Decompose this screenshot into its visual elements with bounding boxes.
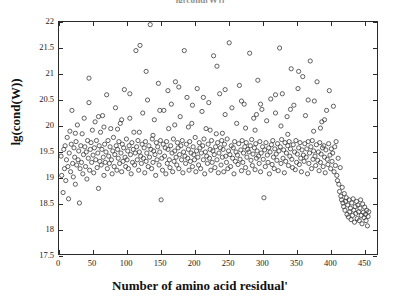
- scatter-point: [112, 164, 116, 168]
- scatter-point: [98, 130, 102, 134]
- scatter-point: [220, 138, 224, 142]
- scatter-point: [186, 147, 190, 151]
- scatter-point: [254, 142, 258, 146]
- scatter-point: [199, 151, 203, 155]
- scatter-point: [307, 151, 311, 155]
- scatter-point: [358, 206, 362, 210]
- scatter-point: [135, 158, 139, 162]
- scatter-point: [256, 78, 260, 82]
- scatter-point: [317, 169, 321, 173]
- scatter-point: [352, 220, 356, 224]
- scatter-point: [190, 164, 194, 168]
- scatter-point: [264, 141, 268, 145]
- scatter-point: [243, 126, 247, 130]
- scatter-point: [137, 168, 141, 172]
- scatter-point: [83, 145, 87, 149]
- scatter-point: [136, 138, 140, 142]
- y-tick-label: 21: [24, 69, 54, 78]
- scatter-point: [286, 132, 290, 136]
- scatter-point: [327, 142, 331, 146]
- scatter-point: [225, 137, 229, 141]
- scatter-point: [206, 142, 210, 146]
- scatter-point: [309, 145, 313, 149]
- scatter-point: [248, 144, 252, 148]
- scatter-figure: lg(cond(W)) lg(cond(W)) Number of amino …: [0, 0, 400, 303]
- scatter-point: [128, 92, 132, 96]
- scatter-point: [327, 89, 331, 93]
- scatter-point: [109, 158, 113, 162]
- scatter-point: [337, 189, 341, 193]
- scatter-point: [116, 156, 120, 160]
- scatter-point: [214, 145, 218, 149]
- scatter-point: [67, 151, 71, 155]
- scatter-point: [115, 147, 119, 151]
- scatter-point: [222, 170, 226, 174]
- scatter-point: [171, 137, 175, 141]
- y-tick-label: 22: [24, 17, 54, 26]
- scatter-point: [222, 142, 226, 146]
- scatter-point: [142, 146, 146, 150]
- scatter-point: [187, 168, 191, 172]
- scatter-point: [105, 93, 109, 97]
- scatter-point: [271, 138, 275, 142]
- scatter-point: [173, 80, 177, 84]
- scatter-point: [88, 147, 92, 151]
- scatter-point: [193, 135, 197, 139]
- scatter-point: [212, 153, 216, 157]
- scatter-point: [99, 163, 103, 167]
- scatter-point: [83, 164, 87, 168]
- scatter-point: [294, 138, 298, 142]
- scatter-point: [336, 156, 340, 160]
- scatter-point: [70, 108, 74, 112]
- scatter-point: [152, 118, 156, 122]
- scatter-point: [153, 153, 157, 157]
- scatter-point: [244, 141, 248, 145]
- scatter-point: [261, 157, 265, 161]
- scatter-point: [155, 158, 159, 162]
- scatter-point: [318, 126, 322, 130]
- scatter-point: [188, 140, 192, 144]
- scatter-point: [275, 158, 279, 162]
- scatter-point: [151, 160, 155, 164]
- scatter-point: [148, 23, 152, 27]
- scatter-point: [88, 168, 92, 172]
- scatter-point: [342, 192, 346, 196]
- scatter-point: [177, 153, 181, 157]
- scatter-point: [144, 69, 148, 73]
- scatter-point: [190, 121, 194, 125]
- scatter-point: [288, 107, 292, 111]
- scatter-point: [343, 208, 347, 212]
- scatter-point: [204, 127, 208, 131]
- scatter-point: [330, 159, 334, 163]
- scatter-point: [134, 49, 138, 53]
- y-tick-label: 20: [24, 121, 54, 130]
- scatter-point: [126, 149, 130, 153]
- scatter-point: [305, 172, 309, 176]
- scatter-point: [138, 43, 142, 47]
- scatter-point: [105, 167, 109, 171]
- scatter-point: [207, 101, 211, 105]
- scatter-point: [100, 114, 104, 118]
- scatter-point: [68, 129, 72, 133]
- scatter-point: [326, 162, 330, 166]
- scatter-point: [248, 51, 252, 55]
- scatter-point: [338, 166, 342, 170]
- scatter-point: [78, 167, 82, 171]
- scatter-point: [306, 140, 310, 144]
- scatter-point: [143, 140, 147, 144]
- scatter-point: [91, 153, 95, 157]
- scatter-point: [313, 154, 317, 158]
- scatter-point: [253, 168, 257, 172]
- scatter-point: [158, 138, 162, 142]
- scatter-point: [119, 151, 123, 155]
- scatter-point: [279, 124, 283, 128]
- y-tick-label: 18.5: [24, 199, 54, 208]
- scatter-point: [250, 163, 254, 167]
- scatter-point: [85, 177, 89, 181]
- scatter-point: [331, 104, 335, 108]
- scatter-point: [273, 93, 277, 97]
- scatter-point: [64, 179, 68, 183]
- scatter-point: [135, 145, 139, 149]
- scatter-point: [219, 163, 223, 167]
- scatter-point: [253, 128, 257, 132]
